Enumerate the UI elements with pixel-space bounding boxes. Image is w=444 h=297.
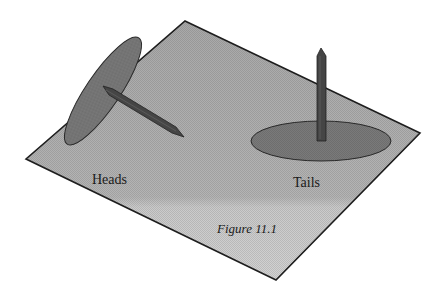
heads-label: Heads [92, 172, 127, 187]
figure-canvas: Heads Tails Figure 11.1 [0, 0, 444, 297]
tails-label: Tails [293, 175, 320, 190]
tails-pin [317, 48, 326, 141]
figure-caption: Figure 11.1 [216, 221, 277, 236]
